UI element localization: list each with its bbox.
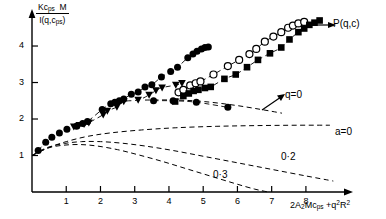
dashed-curve-group <box>32 100 333 192</box>
tick-group <box>32 46 306 192</box>
data-point-filled-circle <box>224 104 231 111</box>
data-point-filled-square <box>221 76 228 83</box>
data-point-filled-square <box>195 87 202 94</box>
y-axis-arrowhead <box>29 9 36 18</box>
data-point-open-circle <box>197 78 204 85</box>
data-point-filled-square <box>202 85 209 92</box>
data-point-filled-circle <box>135 89 142 96</box>
data-point-open-circle <box>253 45 260 52</box>
data-point-filled-triangle <box>99 111 107 118</box>
qzero-arrow-line <box>262 97 281 110</box>
pqc-arrow-head <box>328 22 336 28</box>
plot-canvas <box>0 0 386 219</box>
data-point-filled-square <box>316 17 323 24</box>
series-connector-group <box>38 20 319 150</box>
data-point-filled-circle <box>35 147 42 154</box>
data-point-filled-square <box>255 57 262 64</box>
data-point-open-circle <box>224 63 231 70</box>
y-tick-label: 3 <box>19 78 24 87</box>
axes-group <box>29 9 353 195</box>
data-point-open-circle <box>236 56 243 63</box>
data-point-filled-circle <box>150 97 157 104</box>
data-point-filled-square <box>278 44 285 51</box>
data-point-filled-circle <box>205 44 212 51</box>
figure-panel: Kcps M I(q,cps) 2A2Mcps +q2R2 P(q,c) q=0… <box>0 0 386 219</box>
x-tick-label: 3 <box>132 197 137 206</box>
x-tick-label: 6 <box>235 197 240 206</box>
dashed-curve <box>32 145 268 192</box>
data-point-filled-square <box>286 36 293 43</box>
data-point-filled-circle <box>128 91 135 98</box>
data-point-filled-triangle <box>158 84 166 91</box>
data-point-filled-triangle <box>113 104 121 111</box>
data-point-filled-circle <box>48 134 55 141</box>
data-point-filled-circle <box>141 83 148 90</box>
x-tick-label: 2 <box>98 197 103 206</box>
data-point-filled-circle <box>148 81 155 88</box>
data-point-filled-square <box>267 50 274 57</box>
data-point-filled-circle <box>42 139 49 146</box>
data-point-filled-circle <box>56 129 63 136</box>
data-point-open-circle <box>270 33 277 40</box>
data-point-open-circle <box>246 51 253 58</box>
data-point-filled-triangle <box>145 92 153 99</box>
data-point-filled-circle <box>63 126 70 133</box>
y-tick-label: 4 <box>19 41 24 50</box>
y-tick-label: 2 <box>19 114 24 123</box>
data-point-filled-square <box>244 64 251 71</box>
x-tick-label: 7 <box>269 197 274 206</box>
data-point-filled-triangle <box>152 87 160 94</box>
data-point-filled-square <box>295 29 302 36</box>
y-tick-label: 1 <box>19 151 24 160</box>
data-point-filled-circle <box>193 99 200 106</box>
data-point-filled-circle <box>158 74 165 81</box>
data-point-filled-square <box>207 84 214 91</box>
x-tick-label: 8 <box>303 197 308 206</box>
x-tick-label: 5 <box>201 197 206 206</box>
x-axis-arrowhead <box>344 189 353 196</box>
data-point-open-circle <box>261 38 268 45</box>
data-point-filled-triangle <box>172 82 180 89</box>
dashed-curve <box>145 100 282 113</box>
data-point-open-circle <box>278 29 285 36</box>
data-point-filled-square <box>232 71 239 78</box>
data-point-filled-circle <box>167 68 174 75</box>
x-tick-label: 1 <box>64 197 69 206</box>
qzero-arrow-head <box>277 94 285 101</box>
data-point-open-circle <box>210 71 217 78</box>
data-point-filled-circle <box>174 64 181 71</box>
dashed-curve <box>32 141 333 181</box>
series-connector <box>154 101 228 108</box>
data-point-filled-circle <box>170 97 177 104</box>
series-marker-group <box>35 17 323 154</box>
x-tick-label: 4 <box>166 197 171 206</box>
